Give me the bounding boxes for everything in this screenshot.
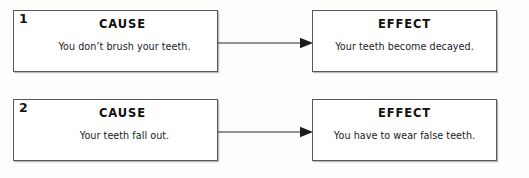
cause-heading: CAUSE <box>14 106 217 120</box>
cause-text: You don’t brush your teeth. <box>14 41 217 52</box>
cause-box[interactable]: 2 CAUSE Your teeth fall out. <box>13 99 218 161</box>
row-number-label: 2 <box>19 102 28 115</box>
effect-heading: EFFECT <box>313 17 496 31</box>
effect-text: You have to wear false teeth. <box>313 130 496 141</box>
effect-heading: EFFECT <box>313 106 496 120</box>
cause-effect-row: 1 CAUSE You don’t brush your teeth. EFFE… <box>0 10 529 72</box>
cause-effect-row: 2 CAUSE Your teeth fall out. EFFECT You … <box>0 99 529 161</box>
cause-heading: CAUSE <box>14 17 217 31</box>
effect-box[interactable]: EFFECT Your teeth become decayed. <box>312 10 497 72</box>
cause-effect-worksheet: 1 CAUSE You don’t brush your teeth. EFFE… <box>0 0 529 178</box>
effect-box[interactable]: EFFECT You have to wear false teeth. <box>312 99 497 161</box>
arrow-right-icon <box>218 37 313 49</box>
cause-text: Your teeth fall out. <box>14 130 217 141</box>
cause-box[interactable]: 1 CAUSE You don’t brush your teeth. <box>13 10 218 72</box>
effect-text: Your teeth become decayed. <box>313 41 496 52</box>
arrow-right-icon <box>218 126 313 138</box>
row-number-label: 1 <box>19 13 28 26</box>
